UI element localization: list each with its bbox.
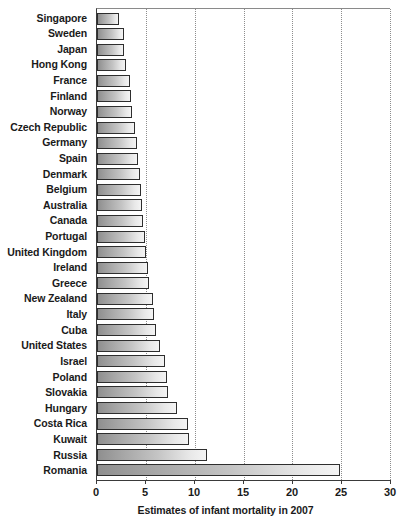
x-axis-tick <box>243 480 244 484</box>
x-axis-ticks <box>96 480 390 485</box>
x-axis-tick <box>292 480 293 484</box>
bar <box>97 184 141 196</box>
x-axis-tick-label: 5 <box>142 486 148 498</box>
bar <box>97 293 153 305</box>
bar <box>97 277 149 289</box>
x-axis-tick-label: 20 <box>286 486 298 498</box>
bar <box>97 75 130 87</box>
bar <box>97 231 145 243</box>
bar-row <box>97 463 390 478</box>
x-axis-title-text: Estimates of infant mortality in 2007 <box>137 504 313 516</box>
y-axis-label: Denmark <box>0 166 92 181</box>
bar-row <box>97 323 390 338</box>
bar-row <box>97 338 390 353</box>
x-axis-tick-label: 0 <box>93 486 99 498</box>
y-axis-label: Australia <box>0 197 92 212</box>
y-axis-label: Hungary <box>0 400 92 415</box>
y-axis-label: Czech Republic <box>0 119 92 134</box>
bar-row <box>97 42 390 57</box>
bar-row <box>97 214 390 229</box>
x-axis-tick-labels: 051015202530 <box>96 486 390 500</box>
bar <box>97 324 156 336</box>
y-axis-label: Israel <box>0 353 92 368</box>
x-axis-tick-label: 30 <box>384 486 396 498</box>
y-axis-label: Slovakia <box>0 385 92 400</box>
y-axis-label: Ireland <box>0 260 92 275</box>
y-axis-label: Sweden <box>0 26 92 41</box>
bar-row <box>97 104 390 119</box>
y-axis-label: Germany <box>0 135 92 150</box>
bar-row <box>97 27 390 42</box>
bar-row <box>97 120 390 135</box>
bar <box>97 418 188 430</box>
bar <box>97 153 138 165</box>
y-axis-label: Finland <box>0 88 92 103</box>
x-axis-tick <box>96 480 97 484</box>
bar-row <box>97 400 390 415</box>
bar-row <box>97 432 390 447</box>
bar-row <box>97 447 390 462</box>
bar <box>97 355 165 367</box>
bar <box>97 371 167 383</box>
y-axis-label: Portugal <box>0 229 92 244</box>
bar <box>97 308 154 320</box>
bar-rows <box>97 9 390 480</box>
bar <box>97 168 140 180</box>
x-axis-tick <box>390 480 391 484</box>
y-axis-label: United States <box>0 338 92 353</box>
bar <box>97 215 143 227</box>
bar <box>97 106 132 118</box>
x-axis-tick-label: 25 <box>335 486 347 498</box>
y-axis-label: Russia <box>0 447 92 462</box>
bar <box>97 199 142 211</box>
bar-row <box>97 11 390 26</box>
bar-row <box>97 73 390 88</box>
y-axis-label: Italy <box>0 307 92 322</box>
bar-row <box>97 260 390 275</box>
y-axis-label: Canada <box>0 213 92 228</box>
bar <box>97 59 126 71</box>
plot-area <box>96 8 390 480</box>
y-axis-label: Greece <box>0 275 92 290</box>
bar-row <box>97 369 390 384</box>
bar-row <box>97 245 390 260</box>
bar-row <box>97 307 390 322</box>
y-axis-label: Costa Rica <box>0 416 92 431</box>
y-axis-label: Kuwait <box>0 431 92 446</box>
bar <box>97 262 148 274</box>
y-axis-label: Spain <box>0 150 92 165</box>
y-axis-label: Hong Kong <box>0 57 92 72</box>
bar-row <box>97 229 390 244</box>
y-axis-label: Cuba <box>0 322 92 337</box>
bar <box>97 137 137 149</box>
y-axis-label: Romania <box>0 463 92 478</box>
bar <box>97 433 189 445</box>
bar-row <box>97 136 390 151</box>
x-axis-tick <box>194 480 195 484</box>
bar-row <box>97 276 390 291</box>
bar <box>97 13 119 25</box>
bar-row <box>97 89 390 104</box>
y-axis-label: Poland <box>0 369 92 384</box>
bar <box>97 449 207 461</box>
x-axis-tick-label: 15 <box>237 486 249 498</box>
x-axis-tick <box>341 480 342 484</box>
bar <box>97 28 124 40</box>
bar-row <box>97 58 390 73</box>
bar <box>97 386 168 398</box>
y-axis-label: Singapore <box>0 10 92 25</box>
infant-mortality-bar-chart: SingaporeSwedenJapanHong KongFranceFinla… <box>0 0 405 525</box>
bar <box>97 464 340 476</box>
bar-row <box>97 167 390 182</box>
bar <box>97 340 160 352</box>
y-axis-label: United Kingdom <box>0 244 92 259</box>
bar-row <box>97 151 390 166</box>
y-axis-label: Belgium <box>0 182 92 197</box>
gridline-30 <box>390 9 391 480</box>
x-axis-title: Estimates of infant mortality in 2007 <box>0 504 405 516</box>
bar <box>97 122 135 134</box>
y-axis-category-labels: SingaporeSwedenJapanHong KongFranceFinla… <box>0 8 92 480</box>
y-axis-label: Norway <box>0 104 92 119</box>
bar-row <box>97 385 390 400</box>
x-axis-tick <box>145 480 146 484</box>
